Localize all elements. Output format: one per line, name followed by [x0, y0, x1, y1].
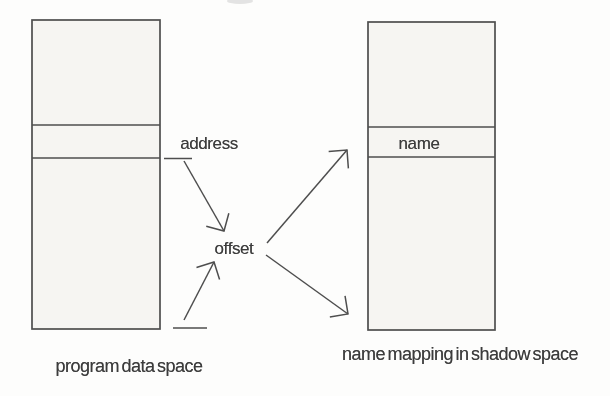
- name-cell-label: name: [399, 134, 440, 154]
- diagram-page: address offset name program data space n…: [0, 0, 610, 396]
- shadow-space-caption: name mapping in shadow space: [342, 344, 578, 364]
- shadow-space-outline: [368, 22, 495, 330]
- offset-label: offset: [215, 239, 254, 259]
- shadow-space-box: [368, 22, 495, 330]
- arrow-address-to-offset: [184, 161, 224, 231]
- program-data-space-caption: program data space: [55, 356, 202, 376]
- arrow-data-end-to-offset: [184, 262, 214, 320]
- address-label: address: [180, 134, 238, 154]
- program-data-space-box: [32, 20, 160, 329]
- scan-smudge: [227, 0, 253, 4]
- program-data-space-outline: [32, 20, 160, 329]
- arrow-offset-to-name: [267, 150, 347, 243]
- diagram-canvas-svg: [0, 0, 610, 396]
- arrow-offset-to-shadow-end: [266, 255, 348, 314]
